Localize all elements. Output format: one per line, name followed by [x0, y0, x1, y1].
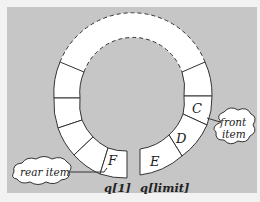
- circular-queue-diagram: C D E F front item rear item q[1] q[limi…: [0, 0, 260, 202]
- cell-label-e: E: [149, 154, 160, 169]
- cell-label-d: D: [175, 131, 187, 146]
- diagram-svg: C D E F front item rear item q[1] q[limi…: [0, 0, 260, 202]
- front-callout-line2: item: [222, 128, 246, 140]
- cell-label-c: C: [192, 101, 202, 116]
- index-label-right: q[limit]: [140, 181, 190, 195]
- rear-callout-text: rear item: [20, 166, 70, 178]
- index-label-left: q[1]: [104, 181, 131, 195]
- front-callout-line1: front: [219, 116, 247, 128]
- cell-label-f: F: [107, 153, 118, 168]
